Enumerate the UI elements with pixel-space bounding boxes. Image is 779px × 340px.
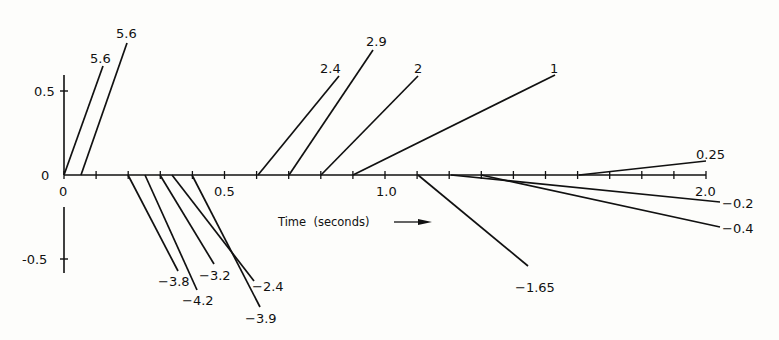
slope-label: −4.2 xyxy=(182,293,214,308)
slope-label: −3.9 xyxy=(245,311,277,326)
slope-label: −2.4 xyxy=(252,279,284,294)
slope-label: −1.65 xyxy=(515,280,555,295)
slope-label: −3.2 xyxy=(199,268,231,283)
x-axis-title: Time (seconds) xyxy=(277,215,369,229)
slope-label: 2.9 xyxy=(366,34,387,49)
slope-segment xyxy=(579,161,706,175)
x-label-10: 1.0 xyxy=(376,184,397,199)
slope-label: 5.6 xyxy=(90,51,111,66)
slope-label: −0.2 xyxy=(722,196,754,211)
slope-segment xyxy=(64,66,103,175)
slope-label: 5.6 xyxy=(116,26,137,41)
slope-segment xyxy=(418,175,528,266)
x-label-05: 0.5 xyxy=(214,184,235,199)
x-title-arrow-icon xyxy=(418,219,432,225)
slope-segments: 5.65.6−3.8−4.2−3.2−2.4−3.92.42.921−1.65−… xyxy=(64,26,754,326)
x-label-0: 0 xyxy=(59,184,67,199)
slope-label: 0.25 xyxy=(696,147,725,162)
slope-segment xyxy=(128,175,178,271)
slope-segment xyxy=(172,175,254,281)
x-label-20: 2.0 xyxy=(695,184,716,199)
slope-chart: 0.5 0 -0.5 0 0.5 1.0 2.0 Time (seconds) … xyxy=(0,0,779,340)
slope-segment xyxy=(481,175,720,227)
y-label-05: 0.5 xyxy=(34,84,55,99)
slope-label: 1 xyxy=(550,61,558,76)
slope-label: 2.4 xyxy=(320,61,341,76)
slope-label: −3.8 xyxy=(158,274,190,289)
slope-label: −0.4 xyxy=(722,221,754,236)
y-label-0: 0 xyxy=(41,168,49,183)
slope-label: 2 xyxy=(414,61,422,76)
y-label-neg05: -0.5 xyxy=(22,252,47,267)
slope-segment xyxy=(353,75,555,175)
slope-segment xyxy=(321,76,418,175)
